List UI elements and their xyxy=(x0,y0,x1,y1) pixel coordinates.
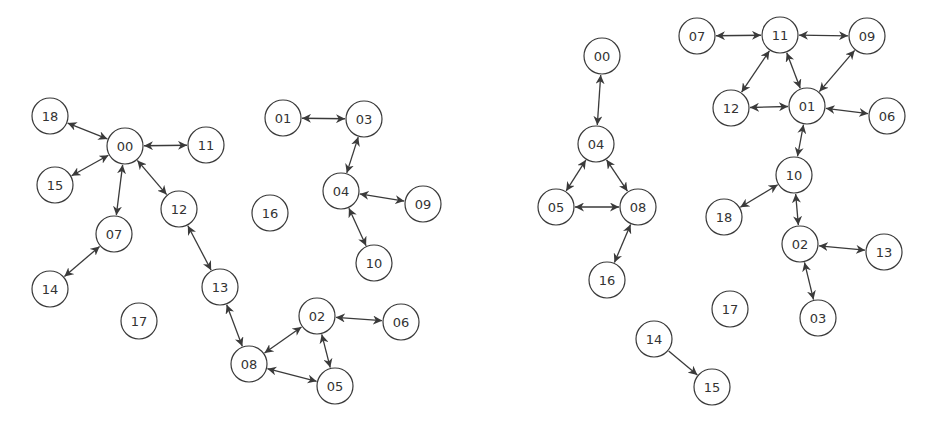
edge-09-01 xyxy=(819,50,854,91)
edge-18-00 xyxy=(68,123,108,139)
node-label: 14 xyxy=(646,332,663,347)
edge-04-05 xyxy=(566,160,586,191)
node-label: 09 xyxy=(859,29,876,44)
node-label: 09 xyxy=(415,197,432,212)
node-label: 11 xyxy=(772,28,789,43)
node-17: 17 xyxy=(121,303,157,339)
node-label: 00 xyxy=(594,49,611,64)
node-label: 13 xyxy=(212,280,229,295)
node-label: 00 xyxy=(117,139,134,154)
edge-04-09 xyxy=(360,194,404,201)
node-label: 18 xyxy=(716,210,733,225)
edge-00-04 xyxy=(597,75,600,125)
node-18: 18 xyxy=(706,199,742,235)
node-08: 08 xyxy=(620,189,656,225)
node-09: 09 xyxy=(405,186,441,222)
node-label: 10 xyxy=(786,168,803,183)
node-label: 11 xyxy=(198,138,215,153)
node-label: 07 xyxy=(106,227,123,242)
node-11: 11 xyxy=(188,127,224,163)
edge-02-05 xyxy=(322,334,331,367)
edge-11-01 xyxy=(787,53,800,88)
right-graph: 00040508160711091201061018021317031415 xyxy=(538,17,905,405)
edge-14-15 xyxy=(669,351,698,375)
node-label: 18 xyxy=(42,109,59,124)
node-label: 05 xyxy=(548,200,565,215)
node-14: 14 xyxy=(32,271,68,307)
node-label: 16 xyxy=(262,206,279,221)
node-label: 12 xyxy=(171,202,188,217)
node-label: 04 xyxy=(333,184,350,199)
node-15: 15 xyxy=(694,369,730,405)
edge-12-13 xyxy=(188,226,211,270)
node-label: 12 xyxy=(723,101,740,116)
node-label: 13 xyxy=(876,245,893,260)
edge-08-05 xyxy=(267,369,316,382)
edge-03-04 xyxy=(347,137,358,173)
node-label: 16 xyxy=(599,273,616,288)
node-15: 15 xyxy=(37,167,73,203)
node-label: 17 xyxy=(131,314,148,329)
node-label: 06 xyxy=(879,109,896,124)
node-11: 11 xyxy=(762,17,798,53)
node-02: 02 xyxy=(782,226,818,262)
node-10: 10 xyxy=(776,157,812,193)
node-label: 02 xyxy=(792,237,809,252)
node-label: 15 xyxy=(47,178,64,193)
node-label: 14 xyxy=(42,282,59,297)
edge-10-18 xyxy=(740,185,777,207)
edge-00-15 xyxy=(72,155,109,176)
node-label: 08 xyxy=(630,200,647,215)
node-05: 05 xyxy=(538,189,574,225)
node-13: 13 xyxy=(866,234,902,270)
node-06: 06 xyxy=(869,98,905,134)
edge-02-13 xyxy=(819,246,865,250)
node-label: 05 xyxy=(327,379,344,394)
node-09: 09 xyxy=(849,18,885,54)
node-label: 07 xyxy=(689,29,706,44)
left-graph: 18001115120714131701031604091002060805 xyxy=(32,98,441,404)
edge-11-12 xyxy=(742,51,770,92)
edge-13-08 xyxy=(227,305,243,346)
node-14: 14 xyxy=(636,321,672,357)
node-02: 02 xyxy=(299,298,335,334)
edge-10-02 xyxy=(796,194,799,225)
edge-04-10 xyxy=(349,208,366,245)
node-10: 10 xyxy=(356,245,392,281)
graph-canvas: 18001115120714131701031604091002060805 0… xyxy=(0,0,928,425)
node-16: 16 xyxy=(252,195,288,231)
node-05: 05 xyxy=(317,368,353,404)
node-12: 12 xyxy=(713,90,749,126)
edge-00-07 xyxy=(116,165,122,215)
edge-07-14 xyxy=(64,246,99,276)
node-04: 04 xyxy=(578,126,614,162)
node-01: 01 xyxy=(789,88,825,124)
edge-01-03 xyxy=(302,118,345,119)
node-label: 17 xyxy=(722,302,739,317)
edge-01-10 xyxy=(798,125,804,157)
node-00: 00 xyxy=(107,128,143,164)
node-01: 01 xyxy=(265,100,301,136)
node-03: 03 xyxy=(346,101,382,137)
node-label: 15 xyxy=(704,380,721,395)
node-label: 10 xyxy=(366,256,383,271)
node-18: 18 xyxy=(32,98,68,134)
edge-01-06 xyxy=(826,108,868,113)
node-label: 02 xyxy=(309,309,326,324)
node-07: 07 xyxy=(679,18,715,54)
node-layer: 00040508160711091201061018021317031415 xyxy=(538,17,905,405)
node-12: 12 xyxy=(161,191,197,227)
edge-11-09 xyxy=(799,35,848,36)
node-label: 06 xyxy=(393,315,410,330)
node-label: 03 xyxy=(356,112,373,127)
node-00: 00 xyxy=(584,38,620,74)
edge-07-11 xyxy=(716,35,761,36)
node-label: 01 xyxy=(799,99,816,114)
edge-00-12 xyxy=(137,160,166,194)
edge-02-03 xyxy=(804,262,813,299)
node-08: 08 xyxy=(231,346,267,382)
node-17: 17 xyxy=(712,291,748,327)
node-07: 07 xyxy=(96,216,132,252)
node-04: 04 xyxy=(323,173,359,209)
node-label: 08 xyxy=(241,357,258,372)
